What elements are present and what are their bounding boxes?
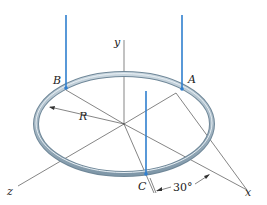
y-axis-label: y <box>113 36 121 49</box>
angle-label: 30° <box>173 181 193 194</box>
attach-b <box>64 86 68 90</box>
radius-label: R <box>78 110 87 123</box>
point-c-label: C <box>138 180 147 193</box>
radius-arrowhead <box>49 106 55 110</box>
angle-arrowhead-left <box>156 187 162 191</box>
attach-a <box>180 87 184 91</box>
point-a-label: A <box>187 73 196 86</box>
line-to-b <box>66 90 124 124</box>
angle-arrowhead-right <box>204 174 210 179</box>
x-axis-line <box>176 93 247 190</box>
ring-diagram: y B A R C 30° x z <box>0 0 267 205</box>
attach-c <box>144 172 148 176</box>
z-axis-label: z <box>6 185 13 198</box>
x-axis-label: x <box>245 186 252 199</box>
z-axis-line <box>18 124 124 186</box>
x-axis-back <box>124 93 176 124</box>
point-b-label: B <box>52 74 61 87</box>
